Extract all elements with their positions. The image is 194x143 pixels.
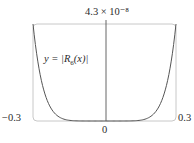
x-min-tick-label: −0.3 (2, 112, 21, 123)
curve-label-prefix: y = | (44, 53, 64, 64)
curve-annotation: y = |R6(x)| (44, 53, 88, 67)
curve-line (33, 24, 176, 121)
y-max-tick-label: 4.3 × 10⁻⁸ (85, 5, 129, 17)
plot-frame (33, 24, 176, 121)
curve-label-arg: (x)| (74, 53, 89, 64)
chart-plot (0, 0, 194, 143)
x-max-tick-label: 0.3 (178, 112, 191, 123)
x-zero-tick-label: 0 (102, 124, 107, 135)
